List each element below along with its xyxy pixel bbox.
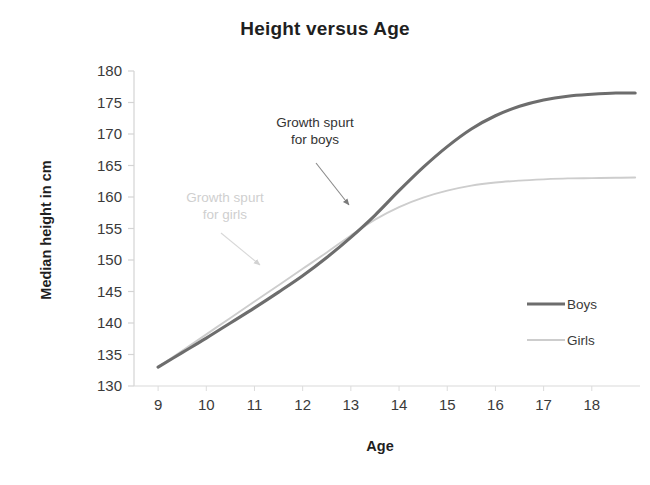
growth-spurt-girls-annotation: Growth spurtfor girls bbox=[160, 190, 290, 224]
y-axis-tick-label: 160 bbox=[76, 188, 122, 205]
annotation-line: Growth spurt bbox=[186, 190, 263, 205]
x-axis-ticks bbox=[158, 386, 592, 391]
x-axis-tick-label: 14 bbox=[379, 396, 419, 413]
annotation-line: Growth spurt bbox=[276, 115, 353, 130]
x-axis-tick-label: 15 bbox=[427, 396, 467, 413]
y-axis-tick-label: 170 bbox=[76, 125, 122, 142]
legend-label-girls: Girls bbox=[567, 333, 595, 348]
growth-spurt-boys-arrow bbox=[316, 163, 349, 205]
x-axis-tick-label: 16 bbox=[475, 396, 515, 413]
annotation-line: for girls bbox=[203, 207, 247, 222]
axis-lines bbox=[134, 71, 640, 386]
y-axis-tick-label: 130 bbox=[76, 377, 122, 394]
y-axis-tick-label: 150 bbox=[76, 251, 122, 268]
x-axis-tick-label: 17 bbox=[524, 396, 564, 413]
x-axis-tick-label: 9 bbox=[138, 396, 178, 413]
y-axis-tick-label: 165 bbox=[76, 157, 122, 174]
data-series-group bbox=[158, 93, 635, 367]
annotation-line: for boys bbox=[291, 132, 339, 147]
y-axis-tick-label: 145 bbox=[76, 283, 122, 300]
x-axis-tick-label: 11 bbox=[234, 396, 274, 413]
legend-swatches bbox=[527, 304, 565, 340]
growth-spurt-boys-annotation: Growth spurtfor boys bbox=[252, 115, 378, 149]
x-axis-tick-label: 10 bbox=[186, 396, 226, 413]
y-axis-tick-label: 135 bbox=[76, 346, 122, 363]
y-axis-tick-label: 180 bbox=[76, 62, 122, 79]
chart-container: Height versus Age Median height in cm Ag… bbox=[0, 0, 650, 485]
x-axis-tick-label: 18 bbox=[572, 396, 612, 413]
y-axis-ticks bbox=[128, 71, 134, 386]
x-axis-tick-label: 12 bbox=[283, 396, 323, 413]
y-axis-tick-label: 175 bbox=[76, 94, 122, 111]
x-axis-tick-label: 13 bbox=[331, 396, 371, 413]
y-axis-tick-label: 155 bbox=[76, 220, 122, 237]
growth-spurt-girls-arrow bbox=[221, 233, 260, 265]
y-axis-tick-label: 140 bbox=[76, 314, 122, 331]
series-line-boys bbox=[158, 93, 635, 367]
legend-label-boys: Boys bbox=[567, 297, 597, 312]
